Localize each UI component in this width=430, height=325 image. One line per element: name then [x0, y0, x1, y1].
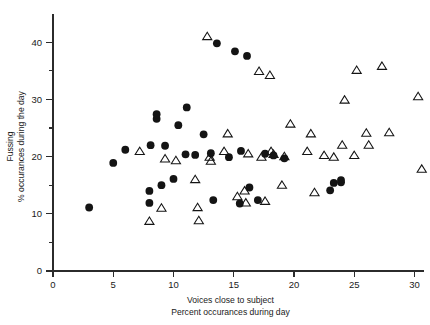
data-point-open-triangle	[320, 151, 329, 158]
data-point-filled-circle	[200, 130, 208, 138]
data-point-filled-circle	[330, 179, 338, 187]
data-point-open-triangle	[377, 62, 386, 69]
data-point-filled-circle	[337, 176, 345, 184]
data-point-open-triangle	[310, 188, 319, 195]
x-tick-label: 20	[289, 279, 300, 290]
y-tick-label: 20	[31, 151, 42, 162]
x-tick-label: 25	[349, 279, 360, 290]
data-point-filled-circle	[231, 47, 239, 55]
data-point-open-triangle	[265, 71, 274, 78]
data-point-open-triangle	[364, 141, 373, 148]
chart-canvas: 010203040051015202530 Voices close to su…	[0, 0, 430, 325]
data-point-open-triangle	[417, 165, 426, 172]
data-point-filled-circle	[209, 196, 217, 204]
x-axis-title-line1: Voices close to subject	[187, 295, 275, 305]
data-point-filled-circle	[280, 154, 288, 162]
data-point-open-triangle	[135, 147, 144, 154]
data-point-filled-circle	[191, 151, 199, 159]
data-point-filled-circle	[182, 150, 190, 158]
x-axis-title-line2: Percent occurances during day	[171, 307, 290, 317]
data-point-open-triangle	[340, 96, 349, 103]
data-point-open-triangle	[244, 149, 253, 156]
data-point-filled-circle	[183, 104, 191, 112]
data-point-filled-circle	[243, 52, 251, 60]
data-point-filled-circle	[146, 187, 154, 195]
data-point-open-triangle	[385, 128, 394, 135]
x-tick-label: 30	[409, 279, 420, 290]
data-point-filled-circle	[161, 142, 169, 150]
x-tick-label: 0	[50, 279, 55, 290]
data-point-open-triangle	[414, 92, 423, 99]
data-point-filled-circle	[174, 121, 182, 129]
x-tick-label: 10	[168, 279, 179, 290]
data-point-open-triangle	[203, 32, 212, 39]
x-tick-label: 15	[228, 279, 239, 290]
data-point-filled-circle	[85, 204, 93, 212]
y-axis-title-line1: Fussing	[5, 131, 15, 161]
tick-labels-group: 010203040051015202530	[31, 37, 419, 290]
data-point-filled-circle	[254, 196, 262, 204]
data-point-open-triangle	[306, 129, 315, 136]
data-point-open-triangle	[171, 156, 180, 163]
y-tick-label: 40	[31, 37, 42, 48]
data-point-open-triangle	[352, 66, 361, 73]
data-point-open-triangle	[277, 181, 286, 188]
scatter-plot-figure: 010203040051015202530 Voices close to su…	[0, 0, 430, 325]
y-axis-title-line2: % occurances during the day	[16, 90, 26, 202]
x-tick-label: 5	[111, 279, 116, 290]
data-point-open-triangle	[286, 120, 295, 127]
data-point-filled-circle	[213, 39, 221, 47]
data-point-filled-circle	[170, 175, 178, 183]
data-point-open-triangle	[194, 216, 203, 223]
y-tick-label: 0	[37, 265, 42, 276]
y-tick-label: 10	[31, 208, 42, 219]
data-point-open-triangle	[338, 141, 347, 148]
data-point-open-triangle	[145, 217, 154, 224]
data-points-group	[85, 32, 426, 224]
data-point-open-triangle	[350, 151, 359, 158]
data-point-filled-circle	[153, 110, 161, 118]
data-point-open-triangle	[193, 203, 202, 210]
data-point-filled-circle	[158, 181, 166, 189]
data-point-open-triangle	[220, 147, 229, 154]
data-point-filled-circle	[326, 186, 334, 194]
data-point-filled-circle	[270, 152, 278, 160]
data-point-filled-circle	[146, 199, 154, 207]
data-point-open-triangle	[362, 129, 371, 136]
data-point-filled-circle	[147, 141, 155, 149]
data-point-open-triangle	[223, 129, 232, 136]
data-point-open-triangle	[329, 153, 338, 160]
data-point-filled-circle	[121, 146, 129, 154]
data-point-open-triangle	[303, 147, 312, 154]
y-tick-label: 30	[31, 94, 42, 105]
data-point-open-triangle	[260, 197, 269, 204]
data-point-open-triangle	[157, 204, 166, 211]
data-point-open-triangle	[160, 155, 169, 162]
data-point-filled-circle	[237, 147, 245, 155]
data-point-open-triangle	[191, 175, 200, 182]
data-point-filled-circle	[109, 159, 117, 167]
data-point-open-triangle	[254, 67, 263, 74]
